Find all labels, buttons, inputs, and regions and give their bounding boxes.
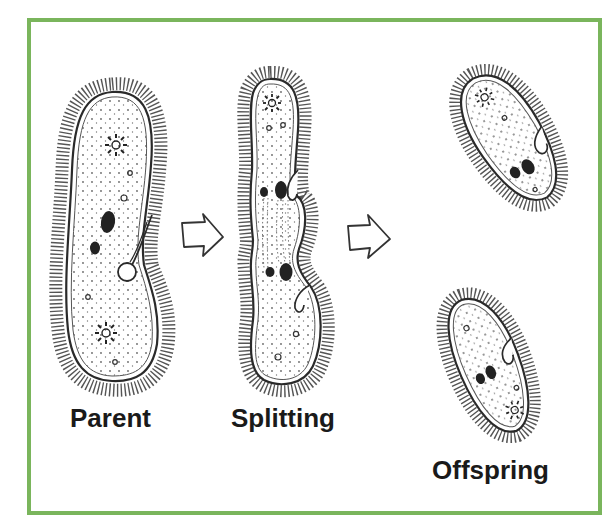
offspring-paramecium-bottom <box>426 280 553 451</box>
hollow-right-arrow-icon <box>182 214 223 256</box>
splitting-macronucleus-bottom <box>280 263 293 281</box>
parent-micronucleus <box>90 242 100 255</box>
splitting-paramecium <box>243 72 328 391</box>
offspring-paramecium-top <box>436 52 585 224</box>
parent-food-vacuole <box>118 263 136 281</box>
stage-label-offspring: Offspring <box>432 457 549 483</box>
parent-paramecium <box>56 84 169 391</box>
hollow-right-arrow-icon <box>348 215 390 258</box>
stage-label-parent: Parent <box>70 405 151 431</box>
fission-illustration <box>0 0 614 531</box>
splitting-macronucleus-top <box>275 181 287 199</box>
stage-label-splitting: Splitting <box>231 405 335 431</box>
